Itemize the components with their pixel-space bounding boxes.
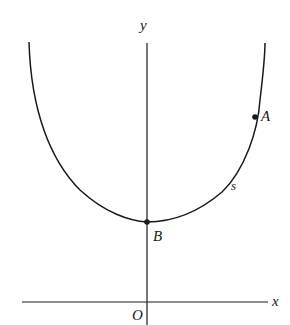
arc-length-label: s	[231, 179, 236, 192]
point-a-label: A	[261, 109, 270, 124]
point-b-marker	[144, 219, 150, 225]
diagram-canvas: y x O A B s	[0, 0, 290, 325]
origin-label: O	[132, 308, 143, 323]
point-b-label: B	[153, 229, 162, 244]
point-a-marker	[252, 114, 258, 120]
diagram-svg	[0, 0, 290, 325]
x-axis-label: x	[272, 294, 279, 309]
y-axis-label: y	[140, 18, 147, 33]
